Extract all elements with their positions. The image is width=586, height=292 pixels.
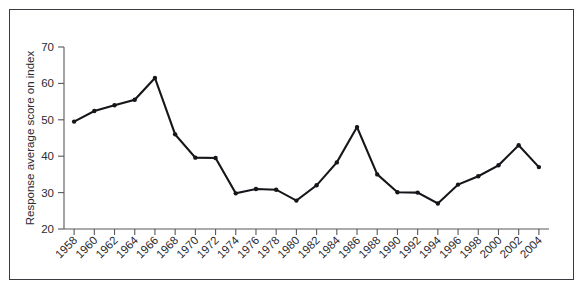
- data-point-2004: [537, 165, 541, 169]
- figure-container: 203040506070 195819601962196419661968197…: [0, 0, 586, 292]
- y-axis-title: Response average score on index: [24, 50, 36, 225]
- data-point-1976: [254, 187, 258, 191]
- x-tick-label-1984: 1984: [316, 234, 343, 261]
- data-point-1970: [193, 155, 197, 159]
- data-point-1962: [112, 103, 116, 107]
- data-point-1968: [173, 132, 177, 136]
- x-tick-label-1972: 1972: [194, 234, 221, 261]
- x-tick-label-1998: 1998: [457, 234, 484, 261]
- data-point-1998: [476, 174, 480, 178]
- x-tick-label-1974: 1974: [215, 234, 242, 261]
- data-point-1992: [415, 190, 419, 194]
- data-point-1986: [355, 125, 359, 129]
- data-series-markers: [72, 76, 541, 206]
- data-point-1972: [213, 156, 217, 160]
- data-point-1958: [72, 119, 76, 123]
- y-tick-label-70: 70: [41, 41, 54, 53]
- x-tick-label-1976: 1976: [235, 234, 262, 261]
- x-tick-label-1988: 1988: [356, 234, 383, 261]
- x-tick-label-1966: 1966: [134, 234, 161, 261]
- line-chart-svg: 203040506070 195819601962196419661968197…: [0, 0, 586, 292]
- y-tick-label-40: 40: [41, 150, 54, 162]
- x-tick-label-2002: 2002: [498, 234, 525, 261]
- x-tick-label-1964: 1964: [114, 234, 141, 261]
- data-point-1994: [436, 201, 440, 205]
- x-tick-label-1982: 1982: [295, 234, 322, 261]
- x-tick-label-1970: 1970: [174, 234, 201, 261]
- y-axis-tick-labels: 203040506070: [41, 41, 54, 235]
- data-point-1990: [395, 190, 399, 194]
- x-tick-label-1960: 1960: [73, 234, 100, 261]
- data-point-1988: [375, 172, 379, 176]
- x-tick-label-1990: 1990: [376, 234, 403, 261]
- x-tick-label-1958: 1958: [53, 234, 80, 261]
- y-tick-label-60: 60: [41, 77, 54, 89]
- data-point-1980: [294, 198, 298, 202]
- x-tick-label-1992: 1992: [396, 234, 423, 261]
- x-tick-label-1962: 1962: [93, 234, 120, 261]
- x-tick-label-2000: 2000: [477, 234, 504, 261]
- x-tick-label-1980: 1980: [275, 234, 302, 261]
- x-tick-label-2004: 2004: [518, 234, 545, 261]
- data-point-1978: [274, 187, 278, 191]
- data-series-line: [74, 78, 539, 204]
- y-tick-label-50: 50: [41, 114, 54, 126]
- x-tick-label-1986: 1986: [336, 234, 363, 261]
- x-tick-label-1968: 1968: [154, 234, 181, 261]
- data-point-1984: [335, 160, 339, 164]
- x-axis-ticks: [74, 229, 539, 235]
- x-tick-label-1978: 1978: [255, 234, 282, 261]
- data-point-2000: [496, 163, 500, 167]
- chart-plot-area: 203040506070 195819601962196419661968197…: [0, 0, 586, 292]
- y-axis-ticks: [58, 47, 64, 229]
- data-point-1996: [456, 182, 460, 186]
- y-tick-label-20: 20: [41, 223, 54, 235]
- data-point-2002: [516, 143, 520, 147]
- x-tick-label-1996: 1996: [437, 234, 464, 261]
- data-point-1966: [153, 76, 157, 80]
- data-point-1964: [133, 98, 137, 102]
- data-point-1960: [92, 109, 96, 113]
- x-tick-label-1994: 1994: [417, 234, 444, 261]
- data-point-1974: [234, 191, 238, 195]
- data-point-1982: [314, 183, 318, 187]
- x-axis-tick-labels: 1958196019621964196619681970197219741976…: [53, 234, 545, 261]
- y-tick-label-30: 30: [41, 187, 54, 199]
